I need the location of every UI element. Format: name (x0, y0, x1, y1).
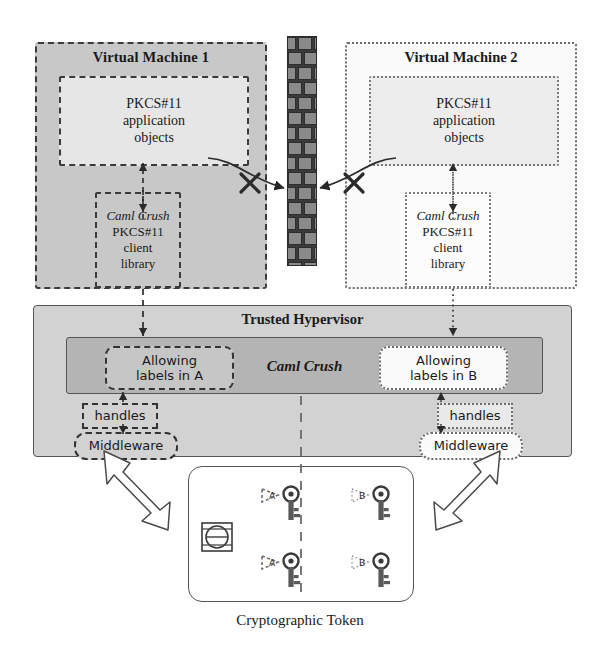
brick (288, 112, 302, 125)
vm2-title: Virtual Machine 2 (347, 49, 575, 66)
middleware-box-b: Middleware (419, 432, 523, 460)
brick (314, 37, 317, 50)
vm2-appobj-line1: PKCS#11 (371, 95, 557, 112)
vm1-clientlib-text: Caml Crush PKCS#11 client library (97, 208, 179, 271)
allowing-labels-b-text: Allowing labels in B (381, 353, 506, 384)
handles-box-a: handles (82, 403, 158, 429)
brick (287, 157, 296, 170)
cryptographic-token-caption: Cryptographic Token (150, 612, 450, 629)
allowing-a-line1: Allowing (107, 353, 232, 368)
vm1-appobj-line1: PKCS#11 (61, 95, 247, 112)
allowing-b-line2: labels in B (381, 368, 506, 383)
brick (314, 97, 317, 110)
brick (287, 97, 296, 110)
brick (304, 52, 317, 65)
brick (288, 142, 302, 155)
brick (298, 67, 312, 80)
vm2-clientlib-line2: PKCS#11 (407, 224, 489, 240)
brick (304, 232, 317, 245)
cryptographic-token-box (188, 466, 414, 602)
brick (298, 187, 312, 200)
brick (298, 217, 312, 230)
vm1-pkcs11-application-objects: PKCS#11 application objects (59, 76, 249, 166)
vm1-title: Virtual Machine 1 (37, 49, 265, 66)
vm1-appobj-line2: application (61, 112, 247, 129)
brick (288, 232, 302, 245)
brick (287, 217, 296, 230)
brick (304, 202, 317, 215)
brick (287, 187, 296, 200)
vm1-clientlib-line2: PKCS#11 (97, 224, 179, 240)
brick (288, 202, 302, 215)
brick (314, 157, 317, 170)
middleware-b-label: Middleware (421, 438, 521, 453)
handles-b-label: handles (439, 408, 511, 423)
brick (314, 187, 317, 200)
vm1-caml-crush-client-library: Caml Crush PKCS#11 client library (95, 192, 181, 288)
allowing-a-line2: labels in A (107, 368, 232, 383)
brick (287, 127, 296, 140)
hypervisor-to-token-left-hollow-arrow (104, 451, 170, 530)
brick (287, 247, 296, 260)
brick (304, 262, 317, 266)
brick (287, 37, 296, 50)
vm1-clientlib-line4: library (97, 256, 179, 272)
brick (298, 97, 312, 110)
vm2-appobj-line2: application (371, 112, 557, 129)
vm2-appobj-line3: objects (371, 130, 557, 147)
brick (298, 127, 312, 140)
hypervisor-title: Trusted Hypervisor (34, 311, 571, 328)
handles-box-b: handles (437, 403, 513, 429)
brick (304, 112, 317, 125)
hypervisor-to-token-right-hollow-arrow (434, 451, 500, 530)
middleware-box-a: Middleware (74, 432, 178, 460)
vm2-caml-crush-client-library: Caml Crush PKCS#11 client library (405, 192, 491, 288)
brick (304, 82, 317, 95)
vm1-appobj-line3: objects (61, 130, 247, 147)
brick (288, 172, 302, 185)
caml-crush-bar: Caml Crush Allowing labels in A Allowing… (66, 337, 543, 394)
brick (298, 37, 312, 50)
vm2-pkcs11-application-objects: PKCS#11 application objects (369, 76, 559, 166)
virtual-machine-1: Virtual Machine 1 PKCS#11 application ob… (35, 42, 267, 289)
vm2-clientlib-text: Caml Crush PKCS#11 client library (407, 208, 489, 271)
handles-a-label: handles (84, 408, 156, 423)
brick (314, 127, 317, 140)
brick (304, 142, 317, 155)
brick (288, 52, 302, 65)
brick (287, 67, 296, 80)
allowing-labels-a-text: Allowing labels in A (107, 353, 232, 384)
diagram-canvas: Virtual Machine 1 PKCS#11 application ob… (0, 0, 602, 661)
vm2-clientlib-line4: library (407, 256, 489, 272)
vm2-clientlib-line3: client (407, 240, 489, 256)
brick (314, 217, 317, 230)
vm2-appobj-text: PKCS#11 application objects (371, 95, 557, 146)
vm1-clientlib-line3: client (97, 240, 179, 256)
brick (314, 247, 317, 260)
brick (288, 262, 302, 266)
trusted-hypervisor: Trusted Hypervisor Caml Crush Allowing l… (33, 305, 572, 457)
brick (298, 157, 312, 170)
allowing-labels-in-a-box: Allowing labels in A (105, 346, 234, 390)
brick (304, 172, 317, 185)
virtual-machine-2: Virtual Machine 2 PKCS#11 application ob… (345, 42, 577, 289)
vm2-clientlib-line1: Caml Crush (407, 208, 489, 224)
allowing-labels-in-b-box: Allowing labels in B (379, 346, 508, 390)
allowing-b-line1: Allowing (381, 353, 506, 368)
brick (314, 67, 317, 80)
brick (298, 247, 312, 260)
middleware-a-label: Middleware (76, 438, 176, 453)
vm1-clientlib-line1: Caml Crush (97, 208, 179, 224)
brick (288, 82, 302, 95)
vm1-appobj-text: PKCS#11 application objects (61, 95, 247, 146)
firewall-brick-wall-icon (287, 36, 317, 266)
